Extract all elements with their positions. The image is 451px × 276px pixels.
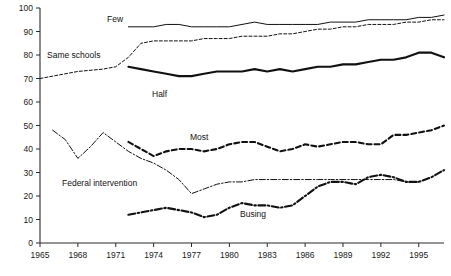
x-tick-label: 1965: [31, 250, 50, 260]
x-axis: 1965196819711974197719801983198619891992…: [31, 243, 444, 260]
y-tick-label: 100: [19, 3, 33, 13]
y-axis: 0102030405060708090100: [19, 3, 40, 248]
series-label-most: Most: [190, 132, 209, 142]
y-tick-label: 0: [28, 238, 33, 248]
series-label-few: Few: [107, 14, 124, 24]
y-tick-label: 70: [24, 74, 34, 84]
y-tick-label: 80: [24, 50, 34, 60]
series-line-same-schools: [40, 20, 444, 79]
x-tick-label: 1986: [296, 250, 315, 260]
line-chart: 0102030405060708090100 19651968197119741…: [0, 0, 451, 276]
series-label-busing: Busing: [240, 209, 266, 219]
x-tick-label: 1971: [106, 250, 125, 260]
y-tick-label: 40: [24, 144, 34, 154]
y-tick-label: 10: [24, 215, 34, 225]
series-annotations: FewSame schoolsHalfMostFederal intervent…: [47, 14, 266, 219]
y-tick-label: 90: [24, 27, 34, 37]
x-tick-label: 1977: [182, 250, 201, 260]
series-line-few: [128, 15, 444, 27]
x-tick-label: 1983: [258, 250, 277, 260]
series-label-half: Half: [152, 89, 168, 99]
y-tick-label: 20: [24, 191, 34, 201]
series-line-most: [128, 126, 444, 157]
series-label-same-schools: Same schools: [47, 50, 100, 60]
y-tick-label: 50: [24, 121, 34, 131]
series-line-busing: [128, 170, 444, 217]
x-tick-label: 1992: [371, 250, 390, 260]
x-tick-label: 1968: [68, 250, 87, 260]
x-tick-label: 1995: [409, 250, 428, 260]
y-tick-label: 60: [24, 97, 34, 107]
series-line-half: [128, 53, 444, 77]
x-tick-label: 1980: [220, 250, 239, 260]
x-tick-label: 1989: [334, 250, 353, 260]
chart-canvas: 0102030405060708090100 19651968197119741…: [0, 0, 451, 276]
y-tick-label: 30: [24, 168, 34, 178]
x-tick-label: 1974: [144, 250, 163, 260]
series-label-federal-intervention: Federal intervention: [62, 178, 137, 188]
